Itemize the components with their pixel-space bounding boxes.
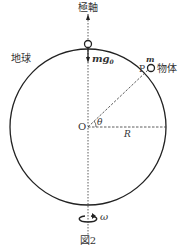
gravity-arrowhead [86,57,90,63]
pole-object [85,41,92,48]
mass-label: m [146,54,154,64]
object-label: 物体 [157,62,177,74]
object-at-p [148,65,155,72]
radius-label: R [123,129,131,139]
center-label: O [78,121,86,132]
axis-label: 極軸 [78,1,98,13]
diagram: 極軸 地球 mg0 m P 物体 O θ R ω 図2 [0,0,186,251]
point-label: P [139,64,145,74]
angle-label: θ [97,117,103,127]
theta-arc [94,121,96,127]
axis-arrowhead [86,14,90,20]
rotation-arrowhead [92,213,96,219]
omega-label: ω [100,211,108,222]
earth-label: 地球 [11,52,31,64]
figure-caption: 図2 [80,235,96,246]
force-label: mg0 [92,53,115,65]
